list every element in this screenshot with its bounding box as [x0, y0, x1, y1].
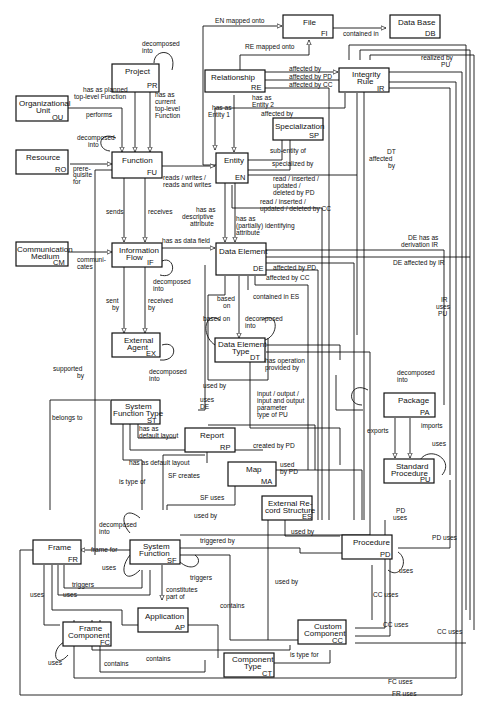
entity-application[interactable]: Application AP: [138, 608, 188, 632]
svg-text:contains: contains: [146, 655, 171, 662]
svg-text:sent: sent: [106, 297, 119, 304]
entity-relationship-diagram: Project PR Organizational Unit OU Resour…: [0, 0, 481, 706]
svg-text:ES: ES: [302, 512, 312, 521]
svg-text:PA: PA: [420, 408, 429, 417]
svg-text:Function: Function: [122, 156, 153, 165]
svg-text:CC: CC: [332, 636, 343, 645]
svg-text:FU: FU: [147, 168, 157, 177]
svg-text:DE: DE: [200, 403, 210, 410]
svg-text:PD: PD: [380, 550, 391, 559]
svg-text:used by: used by: [291, 528, 315, 536]
svg-text:exports: exports: [367, 427, 389, 435]
svg-text:IF: IF: [147, 258, 154, 267]
entity-system-function[interactable]: System Function SF: [130, 540, 180, 565]
svg-text:FC: FC: [100, 638, 111, 647]
svg-text:sub-entity of: sub-entity of: [270, 147, 306, 155]
svg-text:provided by: provided by: [265, 364, 300, 372]
svg-text:Flow: Flow: [126, 253, 143, 262]
entity-file[interactable]: File FI: [283, 15, 333, 38]
svg-text:by: by: [77, 372, 85, 380]
svg-text:created by PD: created by PD: [253, 442, 295, 450]
svg-text:File: File: [303, 18, 316, 27]
svg-text:uses: uses: [30, 591, 45, 598]
svg-text:deleted by PD: deleted by PD: [273, 189, 315, 197]
svg-text:AP: AP: [175, 623, 185, 632]
svg-text:based: based: [217, 295, 235, 302]
entity-integrity-rule[interactable]: Integrity Rule IR: [339, 68, 389, 93]
svg-text:uses: uses: [200, 396, 215, 403]
svg-text:Data Element: Data Element: [219, 247, 268, 256]
svg-text:by: by: [112, 304, 120, 312]
svg-text:default layout: default layout: [139, 432, 178, 440]
svg-text:contained in: contained in: [343, 30, 379, 37]
svg-text:CC uses: CC uses: [373, 591, 399, 598]
svg-text:reads and writes: reads and writes: [163, 181, 212, 188]
svg-text:RE mapped onto: RE mapped onto: [245, 43, 295, 51]
svg-text:uses: uses: [399, 567, 414, 574]
entity-entity[interactable]: Entity EN: [216, 153, 248, 183]
svg-text:constitutes: constitutes: [166, 586, 198, 593]
entity-standard-procedure[interactable]: Standard Procedure PU: [384, 459, 434, 484]
entity-map[interactable]: Map MA: [228, 462, 276, 486]
svg-text:affected by CC: affected by CC: [289, 81, 333, 89]
svg-text:uses: uses: [393, 514, 408, 521]
entity-information-flow[interactable]: Information Flow IF: [112, 243, 162, 267]
entity-system-function-type[interactable]: System Function Type ST: [111, 400, 164, 425]
entity-custom-component[interactable]: Custom Component CC: [298, 620, 346, 645]
svg-text:reads / writes /: reads / writes /: [163, 174, 206, 181]
svg-text:DT: DT: [250, 353, 260, 362]
svg-text:CM: CM: [53, 258, 65, 267]
svg-text:uses: uses: [436, 303, 451, 310]
svg-text:frame for: frame for: [91, 546, 118, 553]
svg-text:FR: FR: [68, 555, 79, 564]
svg-text:PU: PU: [420, 475, 430, 484]
svg-text:used by: used by: [203, 382, 227, 390]
svg-text:SP: SP: [309, 131, 319, 140]
entity-abbr: PR: [147, 81, 158, 90]
entity-data-element[interactable]: Data Element DE: [216, 243, 268, 275]
svg-text:contained in ES: contained in ES: [253, 293, 300, 300]
entity-frame[interactable]: Frame FR: [33, 540, 81, 564]
svg-text:contains: contains: [220, 602, 245, 609]
svg-text:EN: EN: [235, 173, 245, 182]
svg-text:affected: affected: [369, 155, 393, 162]
svg-text:receives: receives: [148, 208, 173, 215]
entity-function[interactable]: Function FU: [112, 152, 162, 178]
entity-data-element-type[interactable]: Data Element Type DT: [215, 338, 267, 362]
svg-text:type of PU: type of PU: [257, 411, 288, 419]
svg-text:Type: Type: [232, 347, 250, 356]
svg-text:has as: has as: [236, 215, 256, 222]
svg-text:uses: uses: [432, 440, 447, 447]
svg-text:into: into: [153, 285, 164, 292]
entity-resource[interactable]: Resource RO: [16, 150, 68, 174]
svg-text:EN mapped onto: EN mapped onto: [215, 17, 265, 25]
svg-text:has as: has as: [212, 104, 232, 111]
entity-specialization[interactable]: Specialization SP: [273, 118, 324, 140]
svg-text:is type of: is type of: [119, 478, 146, 486]
svg-text:MA: MA: [261, 477, 272, 486]
entity-procedure[interactable]: Procedure PD: [342, 535, 392, 559]
svg-text:Package: Package: [398, 396, 430, 405]
entity-external-record-structure[interactable]: External Re- cord Structure ES: [262, 496, 316, 521]
svg-text:received: received: [148, 297, 173, 304]
entity-external-agent[interactable]: External Agent EX: [112, 333, 160, 358]
entity-communication-medium[interactable]: Communication Medium CM: [16, 242, 73, 267]
entity-relationship[interactable]: Relationship RE: [205, 70, 265, 92]
svg-text:DB: DB: [425, 29, 435, 38]
svg-text:has as: has as: [252, 94, 272, 101]
svg-text:used by: used by: [194, 512, 218, 520]
entity-database[interactable]: Data Base DB: [390, 15, 440, 38]
entity-component-type[interactable]: Component Type CT: [224, 653, 274, 678]
svg-text:has as data field: has as data field: [162, 237, 210, 244]
entity-report[interactable]: Report RP: [185, 428, 235, 452]
entity-frame-component[interactable]: Frame Component FC: [63, 622, 111, 647]
svg-text:affected by: affected by: [289, 65, 322, 73]
svg-text:affected by PD: affected by PD: [273, 264, 316, 272]
entity-package[interactable]: Package PA: [384, 393, 435, 417]
svg-text:Entity: Entity: [224, 156, 244, 165]
entity-organizational-unit[interactable]: Organizational Unit OU: [16, 96, 71, 122]
svg-text:uses: uses: [63, 591, 78, 598]
svg-text:is type for: is type for: [290, 651, 319, 659]
svg-text:Relationship: Relationship: [211, 73, 256, 82]
svg-text:used: used: [280, 461, 295, 468]
